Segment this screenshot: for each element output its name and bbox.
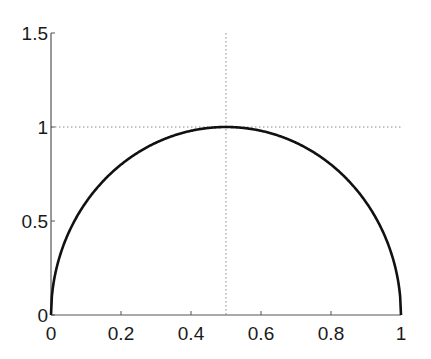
y-tick-label: 0.5 [22, 211, 48, 232]
x-tick-label: 1 [396, 323, 407, 344]
x-tick-label: 0 [46, 323, 57, 344]
y-tick-label: 1.5 [22, 23, 48, 44]
guide-lines [51, 33, 401, 315]
x-tick-label: 0.2 [108, 323, 134, 344]
chart: 00.20.40.60.8100.511.5 [0, 0, 431, 359]
x-tick-label: 0.6 [248, 323, 274, 344]
y-tick-label: 1 [37, 117, 48, 138]
x-tick-label: 0.8 [318, 323, 344, 344]
tick-labels: 00.20.40.60.8100.511.5 [22, 23, 407, 344]
x-tick-label: 0.4 [178, 323, 205, 344]
y-tick-label: 0 [37, 305, 48, 326]
